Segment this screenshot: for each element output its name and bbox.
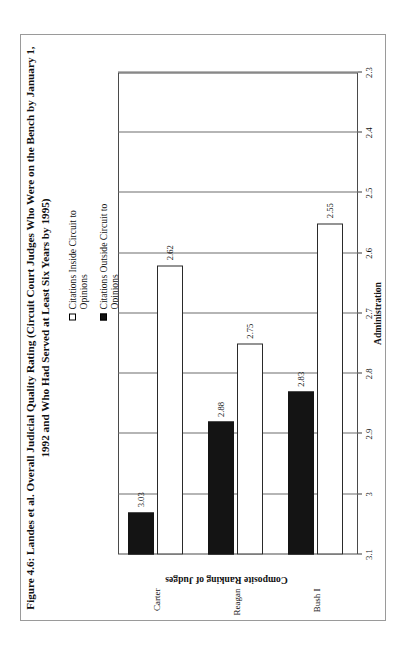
tick-mark: [358, 372, 362, 373]
tick-mark: [358, 192, 362, 193]
gridline: [118, 131, 358, 132]
legend-item-outside-circuit: Citations Outside Circuit to Opinions: [98, 70, 120, 320]
bar-reagan-open: [237, 343, 263, 554]
open-square-icon: [69, 313, 76, 320]
bar-bush-i-filled: [288, 391, 314, 554]
bar-value-label: 2.83: [296, 371, 306, 386]
scanned-page: Figure 4.6: Landes et al. Overall Judici…: [0, 0, 406, 655]
tick-mark: [358, 71, 362, 72]
rotated-figure-stage: Figure 4.6: Landes et al. Overall Judici…: [21, 35, 385, 620]
legend-item-inside-circuit: Citations Inside Circuit to Opinions: [67, 70, 89, 320]
tick-mark: [358, 312, 362, 313]
gridline: [118, 71, 358, 72]
tick-mark: [358, 553, 362, 554]
tick-mark: [358, 252, 362, 253]
bar-value-label: 3.03: [136, 492, 146, 507]
figure-title: Figure 4.6: Landes et al. Overall Judici…: [23, 39, 52, 616]
value-axis-title: Composite Ranking of Judges: [127, 575, 327, 586]
bar-carter-open: [157, 265, 183, 554]
legend-label-outside-circuit: Citations Outside Circuit to Opinions: [98, 199, 120, 309]
bar-reagan-filled: [208, 421, 234, 554]
bar-value-label: 2.55: [325, 203, 335, 218]
bar-bush-i-open: [317, 223, 343, 554]
gridline: [118, 192, 358, 193]
bar-carter-filled: [128, 512, 154, 554]
tick-mark: [358, 131, 362, 132]
figure-border: Figure 4.6: Landes et al. Overall Judici…: [20, 34, 386, 621]
bar-value-label: 2.62: [165, 245, 175, 260]
bar-value-label: 2.88: [216, 401, 226, 416]
tick-mark: [358, 433, 362, 434]
legend-label-inside-circuit: Citations Inside Circuit to Opinions: [67, 199, 89, 309]
tick-mark: [358, 493, 362, 494]
plot-wrapper: 3.132.92.82.72.62.52.42.3 3.032.622.882.…: [118, 72, 358, 554]
bar-value-label: 2.75: [245, 323, 255, 338]
category-axis-title: Administration: [372, 72, 383, 554]
filled-square-icon: [100, 313, 107, 320]
